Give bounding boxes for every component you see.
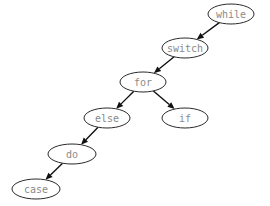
node-label: if xyxy=(179,113,191,124)
edge-switch-for xyxy=(154,57,174,73)
arrowhead-icon xyxy=(197,33,204,40)
node-label: for xyxy=(134,77,152,88)
edge-line xyxy=(50,163,62,175)
nodes-layer: whileswitchforelseifdocase xyxy=(12,4,254,199)
node-switch: switch xyxy=(162,38,208,58)
node-if: if xyxy=(162,108,208,128)
edge-line xyxy=(153,91,169,105)
node-case: case xyxy=(12,179,60,199)
edge-for-if xyxy=(153,91,174,109)
edge-line xyxy=(159,57,174,69)
edge-for-else xyxy=(116,91,134,109)
node-label: case xyxy=(24,184,48,195)
node-for: for xyxy=(120,72,166,92)
node-else: else xyxy=(84,108,130,128)
edge-line xyxy=(121,91,134,104)
node-label: do xyxy=(66,149,78,160)
node-label: else xyxy=(95,113,119,124)
node-label: switch xyxy=(167,43,203,54)
tree-diagram: whileswitchforelseifdocase xyxy=(0,0,270,206)
edge-while-switch xyxy=(197,23,220,40)
edge-line xyxy=(86,127,98,140)
edge-do-case xyxy=(45,163,62,180)
node-label: while xyxy=(216,9,246,20)
node-do: do xyxy=(48,144,96,164)
edge-else-do xyxy=(81,127,98,145)
edge-line xyxy=(202,23,219,36)
node-while: while xyxy=(208,4,254,24)
